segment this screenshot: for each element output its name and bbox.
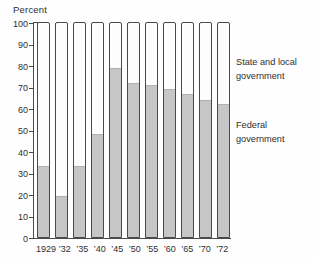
y-axis-tick-label: 30: [6, 169, 28, 179]
y-axis-tick-label: 90: [6, 40, 28, 50]
federal-segment: [146, 85, 157, 237]
x-axis-tick-label: ’50: [126, 244, 144, 254]
federal-segment: [218, 104, 229, 237]
x-axis-tick-label: ’72: [214, 244, 232, 254]
y-axis-tick-label: 50: [6, 126, 28, 136]
y-axis-tick-label: 10: [6, 212, 28, 222]
bar-45: [109, 22, 122, 238]
x-axis-tick-label: ’40: [91, 244, 109, 254]
y-axis-tick: [29, 174, 33, 175]
y-axis-title: Percent: [13, 4, 47, 15]
y-axis-tick: [29, 23, 33, 24]
y-axis-tick-label: 60: [6, 105, 28, 115]
bar-32: [55, 22, 68, 238]
federal-segment: [182, 94, 193, 237]
bar-50: [127, 22, 140, 238]
stacked-bar-chart: Percent 0102030405060708090100 1929’32’3…: [0, 0, 316, 258]
y-axis-tick: [29, 45, 33, 46]
x-axis-tick-label: ’32: [56, 244, 74, 254]
x-axis-tick-label: ’60: [161, 244, 179, 254]
x-axis-labels: 1929’32’35’40’45’50’55’60’65’70’72: [36, 244, 231, 254]
x-axis-tick-label: ’55: [144, 244, 162, 254]
y-axis-tick-label: 100: [6, 19, 28, 29]
bar-35: [73, 22, 86, 238]
y-axis-tick-label: 70: [6, 83, 28, 93]
federal-segment: [56, 196, 67, 237]
y-axis-tick: [29, 88, 33, 89]
federal-segment: [110, 68, 121, 237]
bar-65: [181, 22, 194, 238]
y-axis-line: [33, 22, 34, 238]
y-axis-tick-label: 40: [6, 148, 28, 158]
federal-segment: [74, 166, 85, 237]
x-axis-tick-label: ’65: [179, 244, 197, 254]
y-axis-tick: [29, 195, 33, 196]
bar-40: [91, 22, 104, 238]
plot-area: [37, 22, 230, 238]
y-axis-tick: [29, 152, 33, 153]
bar-72: [217, 22, 230, 238]
bar-60: [163, 22, 176, 238]
federal-segment: [92, 134, 103, 237]
legend-federal-label: Federal government: [236, 119, 316, 146]
x-axis-tick-label: ’70: [196, 244, 214, 254]
bar-55: [145, 22, 158, 238]
y-axis-tick-label: 20: [6, 191, 28, 201]
y-axis-tick: [29, 66, 33, 67]
y-axis-tick: [29, 217, 33, 218]
y-axis-tick: [29, 131, 33, 132]
y-axis-tick-label: 80: [6, 62, 28, 72]
federal-segment: [128, 83, 139, 237]
x-axis-line: [33, 238, 231, 239]
bar-1929: [37, 22, 50, 238]
x-axis-tick-label: ’45: [109, 244, 127, 254]
y-axis-tick-label: 0: [6, 234, 28, 244]
federal-segment: [200, 100, 211, 237]
legend-state-local-label: State and local government: [236, 56, 316, 83]
x-axis-tick-label: ’35: [74, 244, 92, 254]
federal-segment: [164, 89, 175, 237]
bar-70: [199, 22, 212, 238]
federal-segment: [38, 166, 49, 237]
y-axis-tick: [29, 109, 33, 110]
x-axis-tick-label: 1929: [36, 244, 56, 254]
